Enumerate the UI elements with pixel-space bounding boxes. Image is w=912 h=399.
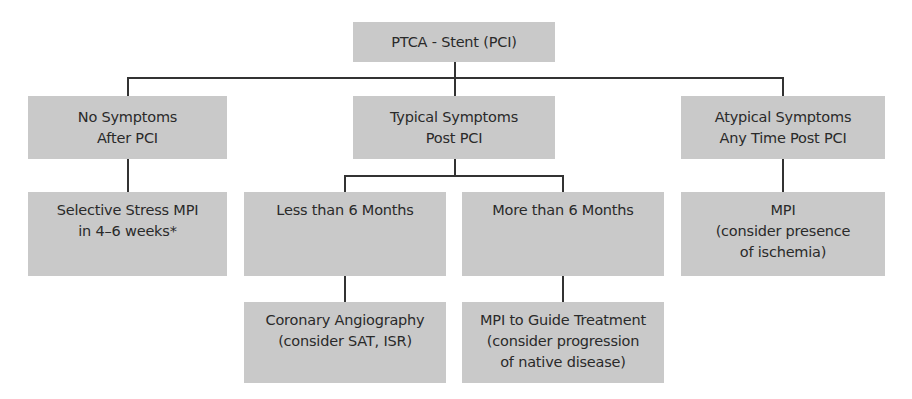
connector-level1-horizontal — [128, 77, 784, 79]
node-atypical-symptoms: Atypical Symptoms Any Time Post PCI — [681, 96, 885, 159]
connector-less-than-6-to-angiography — [344, 276, 346, 302]
node-label-line: (consider SAT, ISR) — [278, 331, 412, 352]
node-label-line: (consider presence — [716, 221, 851, 242]
node-label-line: After PCI — [97, 128, 158, 149]
node-label-line: of ischemia) — [740, 242, 827, 263]
connector-root-down — [454, 62, 456, 78]
node-label-line: (consider progression — [487, 331, 639, 352]
node-label-line: Selective Stress MPI — [57, 200, 199, 221]
connector-atypical-to-mpi — [782, 159, 784, 192]
node-coronary-angiography: Coronary Angiography (consider SAT, ISR) — [244, 302, 446, 383]
node-label: PTCA - Stent (PCI) — [391, 32, 516, 53]
node-label-line: Atypical Symptoms — [715, 107, 852, 128]
node-mpi-guide-treatment: MPI to Guide Treatment (consider progres… — [462, 302, 664, 383]
node-mpi-presence-ischemia: MPI (consider presence of ischemia) — [681, 192, 885, 276]
node-selective-stress-mpi: Selective Stress MPI in 4–6 weeks* — [28, 192, 227, 276]
node-less-than-6-months: Less than 6 Months — [244, 192, 446, 276]
connector-no-symptoms-to-selective-mpi — [127, 159, 129, 192]
node-no-symptoms: No Symptoms After PCI — [28, 96, 227, 159]
node-typical-symptoms: Typical Symptoms Post PCI — [353, 96, 555, 159]
connector-to-more-than-6 — [562, 175, 564, 192]
node-label-line: in 4–6 weeks* — [78, 221, 176, 242]
connector-to-no-symptoms — [127, 77, 129, 96]
connector-typical-down — [454, 159, 456, 176]
connector-to-typical-symptoms — [454, 77, 456, 96]
connector-typical-horizontal — [344, 175, 564, 177]
node-label-line: Less than 6 Months — [276, 200, 413, 221]
node-label-line: More than 6 Months — [492, 200, 633, 221]
node-label-line: Coronary Angiography — [266, 310, 425, 331]
node-label-line: Post PCI — [426, 128, 483, 149]
node-label-line: Any Time Post PCI — [719, 128, 846, 149]
node-label-line: Typical Symptoms — [390, 107, 518, 128]
node-ptca-stent: PTCA - Stent (PCI) — [353, 22, 555, 62]
node-label-line: MPI to Guide Treatment — [480, 310, 646, 331]
connector-to-less-than-6 — [344, 175, 346, 192]
node-label-line: MPI — [771, 200, 796, 221]
node-label-line: of native disease) — [500, 352, 626, 373]
node-label-line: No Symptoms — [78, 107, 177, 128]
connector-to-atypical-symptoms — [782, 77, 784, 96]
connector-more-than-6-to-mpi-guide — [562, 276, 564, 302]
node-more-than-6-months: More than 6 Months — [462, 192, 664, 276]
